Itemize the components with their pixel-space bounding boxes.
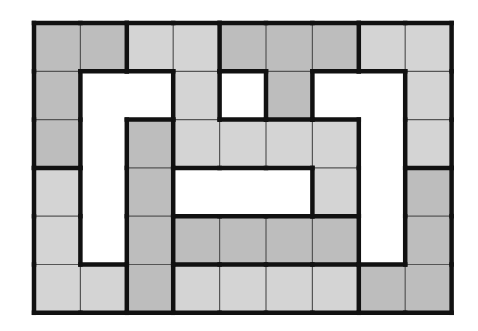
grid-cell [127, 23, 173, 71]
grid-cell [359, 168, 405, 216]
grid-diagram [0, 0, 478, 331]
grid-cell [266, 120, 312, 168]
grid-cell [359, 265, 405, 313]
grid-cell [173, 265, 219, 313]
grid-cell [173, 71, 219, 119]
grid-cell [220, 265, 266, 313]
grid-cell [312, 216, 358, 264]
grid-cell [359, 120, 405, 168]
grid-cell [34, 168, 80, 216]
grid-cell [173, 120, 219, 168]
grid-cell [173, 168, 219, 216]
grid-cell [220, 120, 266, 168]
grid-cell [34, 71, 80, 119]
grid-cell [312, 168, 358, 216]
grid-cell [405, 120, 451, 168]
grid-cell [127, 120, 173, 168]
grid-cell [220, 71, 266, 119]
grid-cell [405, 216, 451, 264]
grid-cell [80, 168, 126, 216]
grid-cell [266, 71, 312, 119]
grid-cell [405, 168, 451, 216]
grid-cell [312, 265, 358, 313]
grid-cell [359, 23, 405, 71]
grid-cell [80, 265, 126, 313]
grid-cell [80, 23, 126, 71]
grid-cell [405, 71, 451, 119]
grid-cell [173, 23, 219, 71]
grid-cell [359, 216, 405, 264]
grid-cell [34, 216, 80, 264]
grid-cell [34, 120, 80, 168]
grid-cell [127, 216, 173, 264]
grid-cell [34, 265, 80, 313]
grid-cell [127, 168, 173, 216]
grid-cell [266, 168, 312, 216]
grid-cell [220, 168, 266, 216]
grid-cell [220, 216, 266, 264]
grid-cell [34, 23, 80, 71]
grid-cell [173, 216, 219, 264]
grid-cell [80, 120, 126, 168]
grid-cell [266, 23, 312, 71]
grid-cell [405, 265, 451, 313]
grid-cell [80, 71, 126, 119]
grid-cell [127, 71, 173, 119]
grid-cell [359, 71, 405, 119]
grid-cell [312, 23, 358, 71]
grid-cell [266, 265, 312, 313]
grid-cell [405, 23, 451, 71]
grid-cell [312, 120, 358, 168]
grid-cell [312, 71, 358, 119]
grid-cell [266, 216, 312, 264]
grid-cell [220, 23, 266, 71]
grid-cell [127, 265, 173, 313]
grid-cell [80, 216, 126, 264]
